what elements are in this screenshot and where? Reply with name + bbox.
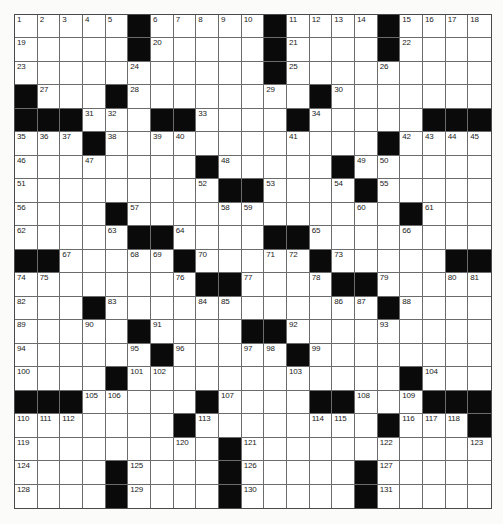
answer-cell[interactable] — [128, 438, 151, 461]
answer-cell[interactable] — [332, 203, 355, 226]
answer-cell[interactable]: 101 — [128, 367, 151, 390]
answer-cell[interactable] — [287, 85, 310, 108]
answer-cell[interactable] — [242, 367, 265, 390]
answer-cell[interactable] — [423, 156, 446, 179]
answer-cell[interactable] — [83, 461, 106, 484]
answer-cell[interactable] — [468, 179, 491, 202]
answer-cell[interactable]: 128 — [15, 485, 38, 508]
answer-cell[interactable]: 39 — [151, 132, 174, 155]
answer-cell[interactable] — [446, 62, 469, 85]
answer-cell[interactable] — [378, 250, 401, 273]
answer-cell[interactable] — [60, 156, 83, 179]
answer-cell[interactable]: 124 — [15, 461, 38, 484]
answer-cell[interactable]: 98 — [264, 344, 287, 367]
answer-cell[interactable] — [423, 485, 446, 508]
answer-cell[interactable] — [355, 414, 378, 437]
answer-cell[interactable] — [423, 85, 446, 108]
answer-cell[interactable]: 77 — [242, 273, 265, 296]
answer-cell[interactable]: 6 — [151, 15, 174, 38]
answer-cell[interactable] — [60, 438, 83, 461]
answer-cell[interactable] — [242, 250, 265, 273]
answer-cell[interactable] — [400, 344, 423, 367]
answer-cell[interactable]: 129 — [128, 485, 151, 508]
answer-cell[interactable] — [174, 156, 197, 179]
answer-cell[interactable] — [400, 320, 423, 343]
answer-cell[interactable]: 96 — [174, 344, 197, 367]
answer-cell[interactable]: 21 — [287, 38, 310, 61]
answer-cell[interactable] — [60, 367, 83, 390]
answer-cell[interactable] — [83, 62, 106, 85]
answer-cell[interactable] — [196, 132, 219, 155]
answer-cell[interactable]: 46 — [15, 156, 38, 179]
answer-cell[interactable]: 100 — [15, 367, 38, 390]
answer-cell[interactable] — [355, 320, 378, 343]
answer-cell[interactable] — [174, 85, 197, 108]
answer-cell[interactable] — [423, 273, 446, 296]
answer-cell[interactable]: 69 — [151, 250, 174, 273]
answer-cell[interactable] — [378, 367, 401, 390]
answer-cell[interactable] — [287, 438, 310, 461]
answer-cell[interactable] — [423, 179, 446, 202]
answer-cell[interactable]: 94 — [15, 344, 38, 367]
answer-cell[interactable] — [83, 344, 106, 367]
answer-cell[interactable] — [128, 109, 151, 132]
answer-cell[interactable] — [60, 203, 83, 226]
answer-cell[interactable]: 60 — [355, 203, 378, 226]
answer-cell[interactable]: 4 — [83, 15, 106, 38]
answer-cell[interactable]: 72 — [287, 250, 310, 273]
answer-cell[interactable] — [106, 344, 129, 367]
answer-cell[interactable] — [83, 250, 106, 273]
answer-cell[interactable] — [423, 226, 446, 249]
answer-cell[interactable] — [264, 414, 287, 437]
answer-cell[interactable] — [219, 414, 242, 437]
answer-cell[interactable] — [151, 273, 174, 296]
answer-cell[interactable] — [128, 156, 151, 179]
answer-cell[interactable] — [264, 273, 287, 296]
answer-cell[interactable]: 47 — [83, 156, 106, 179]
answer-cell[interactable] — [174, 485, 197, 508]
answer-cell[interactable] — [196, 38, 219, 61]
answer-cell[interactable] — [310, 132, 333, 155]
answer-cell[interactable] — [423, 438, 446, 461]
answer-cell[interactable]: 64 — [174, 226, 197, 249]
answer-cell[interactable]: 20 — [151, 38, 174, 61]
answer-cell[interactable] — [242, 62, 265, 85]
answer-cell[interactable]: 15 — [400, 15, 423, 38]
answer-cell[interactable] — [287, 273, 310, 296]
answer-cell[interactable] — [38, 297, 61, 320]
answer-cell[interactable] — [264, 391, 287, 414]
answer-cell[interactable] — [60, 273, 83, 296]
answer-cell[interactable]: 82 — [15, 297, 38, 320]
answer-cell[interactable] — [332, 485, 355, 508]
answer-cell[interactable] — [151, 485, 174, 508]
answer-cell[interactable] — [38, 461, 61, 484]
answer-cell[interactable] — [423, 38, 446, 61]
answer-cell[interactable]: 117 — [423, 414, 446, 437]
answer-cell[interactable] — [60, 62, 83, 85]
answer-cell[interactable] — [174, 461, 197, 484]
answer-cell[interactable]: 23 — [15, 62, 38, 85]
answer-cell[interactable]: 36 — [38, 132, 61, 155]
answer-cell[interactable] — [310, 485, 333, 508]
answer-cell[interactable]: 93 — [378, 320, 401, 343]
answer-cell[interactable] — [355, 62, 378, 85]
answer-cell[interactable] — [60, 485, 83, 508]
answer-cell[interactable] — [106, 250, 129, 273]
answer-cell[interactable] — [128, 273, 151, 296]
answer-cell[interactable] — [83, 38, 106, 61]
answer-cell[interactable] — [400, 156, 423, 179]
answer-cell[interactable] — [264, 297, 287, 320]
answer-cell[interactable] — [332, 226, 355, 249]
answer-cell[interactable] — [196, 85, 219, 108]
answer-cell[interactable] — [38, 203, 61, 226]
answer-cell[interactable]: 31 — [83, 109, 106, 132]
answer-cell[interactable] — [446, 179, 469, 202]
answer-cell[interactable] — [446, 38, 469, 61]
answer-cell[interactable] — [38, 156, 61, 179]
answer-cell[interactable]: 16 — [423, 15, 446, 38]
answer-cell[interactable] — [287, 414, 310, 437]
answer-cell[interactable] — [174, 38, 197, 61]
answer-cell[interactable] — [446, 85, 469, 108]
answer-cell[interactable]: 91 — [151, 320, 174, 343]
answer-cell[interactable] — [219, 132, 242, 155]
